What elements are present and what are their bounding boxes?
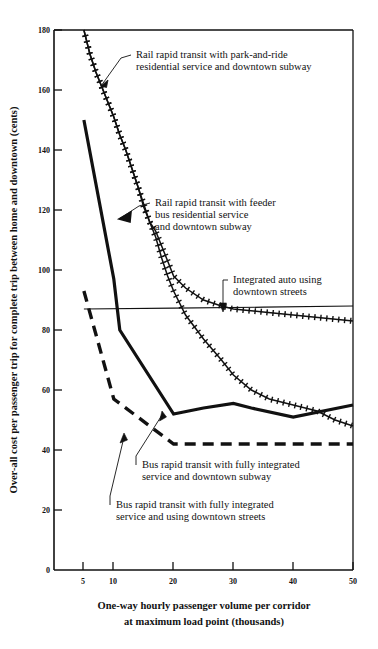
x-tick-50: 50 [349,577,357,586]
chart-figure: 180 160 140 120 100 80 60 40 20 0 5 10 2… [0,0,378,649]
y-tick-0: 0 [46,566,50,575]
y-tick-60: 60 [42,386,50,395]
y-tick-80: 80 [42,326,50,335]
annot-bus-streets: Bus rapid transit with fully integrated … [116,499,275,522]
x-tick-20: 20 [169,577,177,586]
annot-bus-subway-line1: Bus rapid transit with fully integrated [142,459,301,470]
y-tick-180: 180 [38,26,50,35]
annot-feeder-bus-line3: and downtown subway [155,221,253,232]
annot-bus-subway-line2: service and downtown subway [142,471,272,482]
annot-bus-streets-line1: Bus rapid transit with fully integrated [116,499,275,510]
y-tick-20: 20 [42,506,50,515]
annot-park-and-ride-line2: residential service and downtown subway [136,61,312,72]
chart-background [0,0,378,649]
y-tick-40: 40 [42,446,50,455]
y-tick-160: 160 [38,86,50,95]
x-tick-40: 40 [289,577,297,586]
x-tick-30: 30 [229,577,237,586]
y-axis-title: Over-all cost per passenger trip for com… [8,106,20,493]
y-tick-120: 120 [38,206,50,215]
annot-bus-streets-line2: service and using downtown streets [116,511,265,522]
annot-park-and-ride-line1: Rail rapid transit with park-and-ride [136,49,288,60]
x-tick-5: 5 [81,577,85,586]
annot-feeder-bus-line2: bus residential service [155,209,249,220]
x-axis-title-line1: One-way hourly passenger volume per corr… [98,600,311,611]
annot-integrated-auto-line2: downtown streets [233,286,307,297]
y-axis-title-text: Over-all cost per passenger trip for com… [8,106,20,493]
y-tick-100: 100 [38,266,50,275]
annot-integrated-auto-line1: Integrated auto using [233,274,322,285]
y-tick-140: 140 [38,146,50,155]
x-axis-title-line2: at maximum load point (thousands) [124,616,284,628]
annot-park-and-ride: Rail rapid transit with park-and-ride re… [136,49,312,72]
annot-feeder-bus-line1: Rail rapid transit with feeder [155,197,276,208]
x-tick-10: 10 [109,577,117,586]
chart-svg: 180 160 140 120 100 80 60 40 20 0 5 10 2… [0,0,378,649]
